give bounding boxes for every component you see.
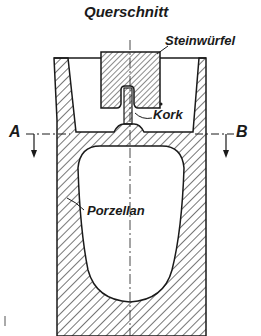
label-porcelain: Porzellan (87, 204, 145, 217)
cork-dot (160, 103, 163, 106)
label-cork: Kork (153, 108, 183, 121)
label-section-b: B (236, 124, 248, 140)
cork-plug (124, 88, 132, 124)
diagram-title: Querschnitt (84, 4, 168, 19)
label-stone-cube: Steinwürfel (165, 34, 235, 47)
cross-section-drawing (0, 0, 261, 336)
cork-leader (135, 113, 152, 118)
cross-section-diagram: Querschnitt Steinwürfel Kork Porzellan A… (0, 0, 261, 336)
label-section-a: A (9, 124, 21, 140)
